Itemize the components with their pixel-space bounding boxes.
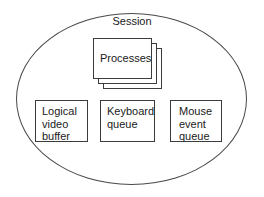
logical-video-buffer-box: Logical video buffer xyxy=(35,100,88,142)
session-diagram: Session Processes Logical video buffer K… xyxy=(0,0,264,197)
processes-box: Processes xyxy=(93,38,152,79)
mouse-event-queue-label: Mouse event queue xyxy=(179,105,219,143)
session-label: Session xyxy=(0,15,264,28)
keyboard-queue-label: Keyboard queue xyxy=(107,105,152,130)
logical-video-buffer-label: Logical video buffer xyxy=(42,105,85,143)
keyboard-queue-box: Keyboard queue xyxy=(100,100,155,142)
mouse-event-queue-box: Mouse event queue xyxy=(170,100,222,142)
processes-label: Processes xyxy=(100,52,151,65)
